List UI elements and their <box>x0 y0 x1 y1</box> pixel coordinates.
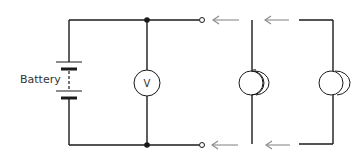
circuit-diagram: Battery V <box>0 0 360 168</box>
battery-label: Battery <box>20 73 61 86</box>
junction-dot-bottom <box>144 142 150 148</box>
arrow-left-icon <box>212 141 238 149</box>
arrow-left-icon <box>266 141 290 149</box>
lamp-1-icon <box>239 20 269 144</box>
arrow-left-icon <box>265 16 289 24</box>
voltmeter-label: V <box>144 78 151 89</box>
terminal-top-icon <box>200 18 205 23</box>
lamp-2-icon <box>299 20 350 144</box>
junction-dot-top <box>144 17 150 23</box>
arrow-left-icon <box>213 16 239 24</box>
terminal-bottom-icon <box>200 143 205 148</box>
